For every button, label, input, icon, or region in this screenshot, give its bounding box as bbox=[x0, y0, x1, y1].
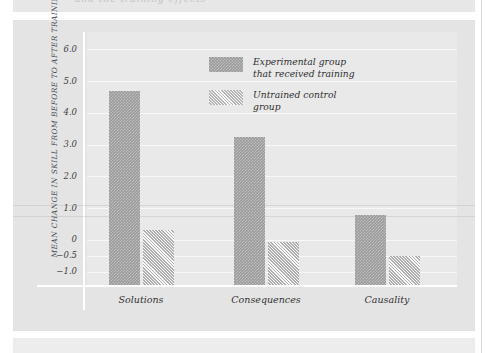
y-tick-label: 5.0 bbox=[33, 76, 77, 86]
x-category-label-consequences: Consequences bbox=[206, 294, 326, 305]
page-edge-rule bbox=[481, 0, 482, 353]
y-tick-label: −1.0 bbox=[33, 266, 77, 276]
gridline bbox=[87, 145, 457, 146]
legend-item-control: Untrained control group bbox=[209, 89, 419, 112]
bar-control-solutions bbox=[143, 230, 174, 285]
x-axis-baseline bbox=[37, 285, 457, 287]
bar-control-consequences bbox=[268, 242, 299, 285]
page-bleed-bottom bbox=[13, 338, 475, 353]
gridline bbox=[87, 208, 457, 209]
page-gap-top bbox=[0, 12, 492, 20]
y-tick-label: 4.0 bbox=[33, 107, 77, 117]
legend-swatch-control-icon bbox=[209, 90, 243, 105]
bar-experimental-causality bbox=[355, 215, 386, 285]
legend-label-experimental-line2: that received training bbox=[253, 68, 355, 79]
y-tick-label: −0.5 bbox=[33, 250, 77, 260]
y-tick-label: 6.0 bbox=[33, 44, 77, 54]
y-axis-line bbox=[83, 32, 85, 310]
y-tick-label: 2.0 bbox=[33, 171, 77, 181]
y-tick-label: 0 bbox=[33, 234, 77, 244]
legend-label-experimental-line1: Experimental group bbox=[253, 56, 346, 67]
x-category-label-solutions: Solutions bbox=[81, 294, 201, 305]
chart-legend: Experimental group that received trainin… bbox=[209, 56, 419, 122]
chart-figure-panel: MEAN CHANGE IN SKILL FROM BEFORE TO AFTE… bbox=[13, 20, 475, 331]
y-tick-label: 1.0 bbox=[33, 203, 77, 213]
y-tick-label: 3.0 bbox=[33, 139, 77, 149]
gridline bbox=[87, 176, 457, 177]
legend-label-control-line2: group bbox=[253, 101, 281, 112]
page-bleed-top: and the training effects bbox=[13, 0, 475, 12]
x-category-label-causality: Causality bbox=[327, 294, 447, 305]
legend-label-control-line1: Untrained control bbox=[253, 89, 336, 100]
page-gap-bottom bbox=[0, 331, 492, 338]
gridline bbox=[87, 49, 457, 50]
legend-label-control: Untrained control group bbox=[253, 89, 336, 112]
legend-swatch-experimental-icon bbox=[209, 57, 243, 72]
legend-label-experimental: Experimental group that received trainin… bbox=[253, 56, 355, 79]
bar-experimental-consequences bbox=[234, 137, 265, 285]
bar-experimental-solutions bbox=[109, 91, 140, 285]
figure-page: and the training effects MEAN CHANGE IN … bbox=[0, 0, 492, 353]
legend-item-experimental: Experimental group that received trainin… bbox=[209, 56, 419, 79]
bleed-ghost-text: and the training effects bbox=[75, 0, 206, 4]
bar-control-causality bbox=[389, 256, 420, 285]
